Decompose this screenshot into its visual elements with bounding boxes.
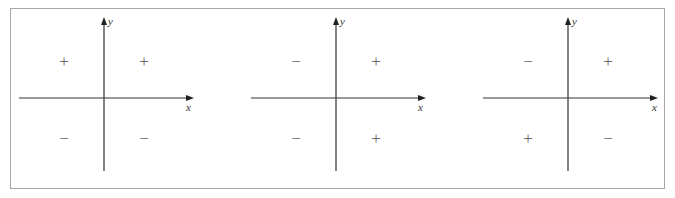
quadrant-III-sign: + (523, 129, 533, 148)
quadrant-II-sign: − (291, 52, 301, 71)
x-axis-label: x (651, 101, 657, 113)
panel-1: x y + + − − (19, 15, 194, 171)
quadrant-III-sign: − (291, 129, 301, 148)
quadrant-II-sign: − (523, 52, 533, 71)
quadrant-III-sign: − (59, 129, 69, 148)
panel-3: x y − + + − (483, 15, 658, 171)
quadrant-sign-diagram: x y + + − − x y − + − + x y − + + − (0, 0, 675, 198)
y-axis-arrow-icon (565, 17, 571, 25)
y-axis-label: y (107, 15, 113, 27)
y-axis-arrow-icon (101, 17, 107, 25)
quadrant-IV-sign: − (603, 129, 613, 148)
y-axis-label: y (571, 15, 577, 27)
quadrant-I-sign: + (371, 52, 381, 71)
panel-2: x y − + − + (251, 15, 426, 171)
y-axis-arrow-icon (333, 17, 339, 25)
y-axis-label: y (339, 15, 345, 27)
quadrant-IV-sign: + (371, 129, 381, 148)
x-axis-label: x (185, 101, 191, 113)
quadrant-II-sign: + (59, 52, 69, 71)
quadrant-IV-sign: − (139, 129, 149, 148)
quadrant-I-sign: + (603, 52, 613, 71)
x-axis-label: x (417, 101, 423, 113)
quadrant-I-sign: + (139, 52, 149, 71)
